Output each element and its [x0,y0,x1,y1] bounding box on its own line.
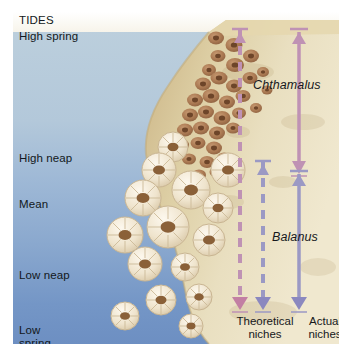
tide-label-low-spring: Low spring [19,324,51,344]
tides-heading: TIDES [19,14,54,26]
caption-actual-niches: Actual niches [271,315,339,341]
species-label-chthamalus: Chthamalus [253,78,321,92]
tide-label-mean: Mean [19,198,48,211]
barnacle-zonation-figure: TIDES High spring High neap Mean Low nea… [13,12,339,344]
tide-label-low-neap: Low neap [19,269,70,282]
tide-label-high-spring: High spring [19,30,78,43]
arrow-chthamalus-theoretical [232,29,248,312]
arrow-chthamalus-actual [290,29,308,176]
tide-label-high-neap: High neap [19,152,72,165]
species-label-balanus: Balanus [272,230,318,244]
niche-range-arrows [13,12,339,344]
arrow-balanus-theoretical [255,161,271,312]
